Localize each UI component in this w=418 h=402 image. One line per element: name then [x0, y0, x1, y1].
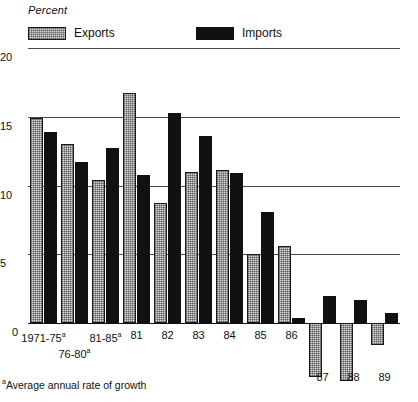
- bars-layer: [28, 48, 400, 323]
- y-tick-label-5: 5: [0, 258, 24, 269]
- y-axis-unit-label: Percent: [28, 4, 67, 16]
- plot-area: [28, 48, 400, 323]
- x-tick-label-76-80: 76-80a: [45, 345, 105, 360]
- x-tick-label-1971-75: 1971-75a: [14, 329, 74, 344]
- x-tick-footnote-marker: a: [87, 347, 91, 354]
- bar-exports-85: [247, 254, 260, 323]
- bar-imports-83: [199, 136, 212, 323]
- x-tick-footnote-marker: a: [62, 331, 66, 338]
- bar-exports-86: [278, 246, 291, 323]
- bar-imports-76-80ᵃ: [75, 162, 88, 323]
- x-tick-text: 76-80: [58, 348, 86, 360]
- footnote-text: Average annual rate of growth: [6, 379, 146, 391]
- bar-imports-87: [323, 296, 336, 324]
- bar-exports-82: [154, 203, 167, 323]
- chart-legend: Exports Imports: [28, 24, 400, 44]
- y-tick-label-15: 15: [0, 121, 24, 132]
- x-tick-label-86: 86: [262, 329, 322, 341]
- x-tick-text: 1971-75: [21, 332, 61, 344]
- bar-imports-89: [385, 313, 398, 323]
- bar-imports-1971-75ᵃ: [44, 132, 57, 323]
- chart-figure: Percent Exports Imports 5101520 0 1971-7…: [0, 0, 418, 402]
- bar-imports-82: [168, 113, 181, 323]
- bar-exports-76-80ᵃ: [61, 144, 74, 323]
- bar-imports-81: [137, 175, 150, 324]
- bar-imports-84: [230, 173, 243, 323]
- bar-exports-84: [216, 170, 229, 323]
- x-tick-text: 86: [285, 329, 297, 341]
- hatched-swatch-icon: [28, 27, 66, 40]
- bar-imports-81-85ᵃ: [106, 148, 119, 323]
- bar-imports-85: [261, 212, 274, 323]
- legend-label-imports: Imports: [242, 26, 282, 40]
- legend-item-imports: Imports: [196, 24, 282, 42]
- bar-imports-88: [354, 300, 367, 323]
- x-tick-text: 89: [378, 371, 390, 383]
- y-tick-label-10: 10: [0, 190, 24, 201]
- legend-item-exports: Exports: [28, 24, 115, 42]
- y-tick-label-20: 20: [0, 52, 24, 63]
- bar-exports-81: [123, 93, 136, 323]
- legend-label-exports: Exports: [74, 26, 115, 40]
- bar-exports-1971-75ᵃ: [30, 118, 43, 323]
- chart-footnote: aAverage annual rate of growth: [2, 378, 146, 391]
- x-tick-label-89: 89: [355, 371, 415, 383]
- bar-exports-81-85ᵃ: [92, 180, 105, 323]
- solid-swatch-icon: [196, 27, 234, 40]
- x-axis-tick-labels: 1971-75a76-80a81-85a818283848586878889: [28, 323, 400, 383]
- bar-exports-83: [185, 172, 198, 323]
